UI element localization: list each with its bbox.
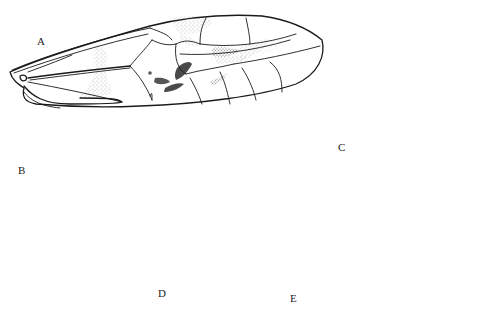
panel-label-c: C xyxy=(338,142,345,153)
panel-label-d: D xyxy=(158,288,166,299)
illustration-plate: A B C D E xyxy=(0,0,481,334)
panel-label-a: A xyxy=(37,36,45,47)
panel-label-e: E xyxy=(290,293,297,304)
panel-label-b: B xyxy=(18,165,25,176)
forewing-drawing xyxy=(10,15,323,108)
